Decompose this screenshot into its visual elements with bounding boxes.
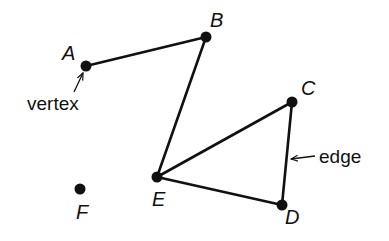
edge-C-D [282,102,292,205]
edge-E-C [157,102,292,177]
vertex-A [81,61,92,72]
edge-B-E [157,37,206,177]
edges-group [86,37,292,205]
vertex-F [75,184,86,195]
vertex-label-A: A [61,42,75,64]
vertex-B [201,32,212,43]
graph-diagram: ABCDEF vertex edge [0,0,389,241]
vertex-label-F: F [76,201,90,223]
vertex-annotation: vertex [27,93,79,114]
graph-svg: ABCDEF vertex edge [0,0,389,241]
vertex-label-C: C [301,77,316,99]
vertex-label-D: D [285,206,299,228]
vertex-pointer-arrow-icon [74,73,83,92]
vertex-C [287,97,298,108]
edge-E-D [157,177,282,205]
vertex-E [152,172,163,183]
edge-annotation: edge [319,146,361,167]
vertex-label-E: E [152,188,166,210]
edge-pointer-arrow-icon [291,156,315,159]
vertex-label-B: B [210,9,223,31]
edge-A-B [86,37,206,66]
